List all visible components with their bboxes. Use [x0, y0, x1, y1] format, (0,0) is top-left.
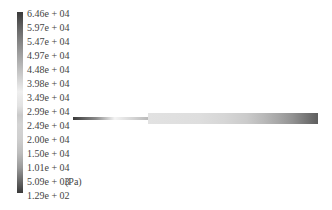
- tick-label: 2.49e + 04: [27, 121, 70, 131]
- tick-label: 3.49e + 04: [27, 93, 70, 103]
- tick-label: 4.97e + 04: [27, 51, 70, 61]
- tick-label: 3.98e + 04: [27, 79, 70, 89]
- tick-label: 2.99e + 04: [27, 107, 70, 117]
- pipe-inlet-section: [73, 117, 149, 120]
- tick-label: 1.01e + 04: [27, 163, 70, 173]
- pipe-main-channel: [148, 113, 318, 124]
- tick-label: 5.09e + 03: [27, 177, 70, 187]
- tick-label: 1.50e + 04: [27, 149, 70, 159]
- tick-label: 6.46e + 04: [27, 9, 70, 19]
- tick-label: 5.97e + 04: [27, 23, 70, 33]
- tick-label: 5.47e + 04: [27, 37, 70, 47]
- tick-label: 2.00e + 04: [27, 135, 70, 145]
- tick-label: 1.29e + 02: [27, 191, 70, 201]
- tick-label: 4.48e + 04: [27, 65, 70, 75]
- pressure-colorbar: [17, 12, 23, 193]
- unit-label: (Pa): [65, 176, 82, 187]
